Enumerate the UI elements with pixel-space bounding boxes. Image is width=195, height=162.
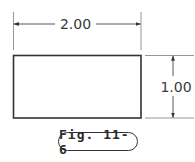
width-dimension-label: 2.00 — [60, 16, 91, 32]
height-dimension-label: 1.00 — [160, 79, 191, 95]
rectangle-shape — [14, 56, 142, 119]
figure-caption: Fig. 11-6 — [58, 132, 138, 151]
